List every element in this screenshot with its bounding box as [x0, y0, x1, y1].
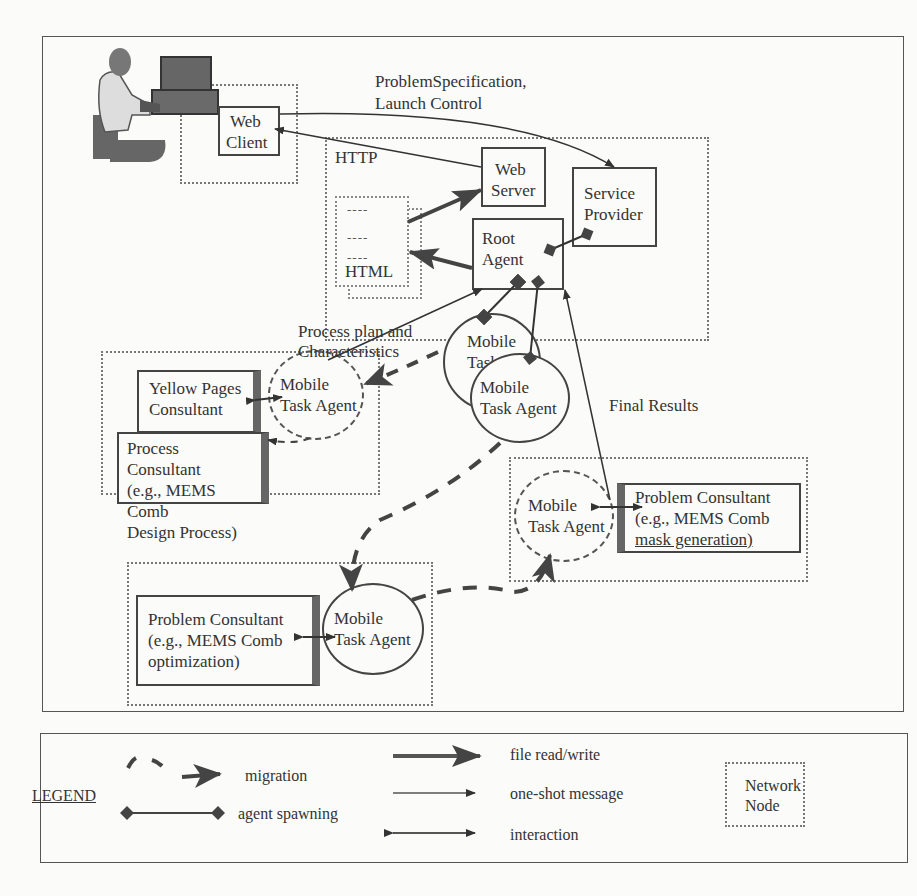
process-consultant-label: Process Consultant [127, 438, 253, 480]
characteristics-label: Characteristics [298, 342, 399, 362]
process-plan-label: Process plan and [298, 322, 412, 342]
html-label: HTML [345, 262, 393, 282]
legend-migration: migration [245, 767, 307, 785]
mta-front-label: Mobile [480, 377, 529, 398]
problem-consultant-opt-label-3: optimization) [148, 651, 302, 672]
process-consultant-label-2: (e.g., MEMS Comb [127, 480, 253, 522]
web-server-label: Web [491, 159, 536, 180]
web-client-label: Web [226, 111, 272, 132]
web-client-box: Web Client [218, 106, 280, 156]
legend-file-read-write: file read/write [510, 746, 600, 764]
mta-process-label: Mobile [280, 374, 329, 395]
mta-back-label: Mobile [467, 331, 516, 352]
launch-control-label: Launch Control [375, 94, 482, 114]
service-provider-box: Service Provider [572, 167, 657, 247]
problem-consultant-mask-label-3: mask generation) [635, 529, 789, 550]
service-provider-label: Service [584, 183, 645, 204]
legend-node-label: Node [745, 796, 803, 816]
web-client-label-2: Client [226, 132, 272, 153]
problem-consultant-mask-label: Problem Consultant [635, 487, 789, 508]
legend-network-node: Network Node [725, 762, 805, 827]
legend-interaction: interaction [510, 826, 578, 844]
mta-mask-label: Mobile [528, 495, 577, 516]
root-agent-label: Root [482, 228, 554, 249]
html-dash-2: ---- [347, 230, 368, 246]
process-consultant-label-3: Design Process) [127, 522, 253, 543]
mta-opt-label: Mobile [334, 608, 383, 629]
http-label: HTTP [335, 148, 378, 168]
problem-consultant-mask-box: Problem Consultant (e.g., MEMS Comb mask… [617, 483, 801, 553]
mobile-task-agent-mask: Mobile Task Agent [514, 470, 614, 562]
process-consultant-box: Process Consultant (e.g., MEMS Comb Desi… [117, 432, 269, 504]
mobile-task-agent-optimization: Mobile Task Agent [322, 583, 424, 675]
mobile-task-agent-front: Mobile Task Agent [470, 353, 570, 443]
yellow-pages-box: Yellow Pages Consultant [137, 370, 261, 433]
mta-front-label-2: Task Agent [480, 398, 557, 419]
problem-consultant-optimization-box: Problem Consultant (e.g., MEMS Comb opti… [136, 595, 320, 686]
html-dash-1: ---- [347, 202, 368, 218]
service-provider-label-2: Provider [584, 204, 645, 225]
legend-one-shot-message: one-shot message [510, 785, 623, 803]
root-agent-box: Root Agent [472, 218, 564, 290]
legend-agent-spawning: agent spawning [238, 805, 338, 823]
mta-opt-label-2: Task Agent [334, 629, 411, 650]
mta-process-label-2: Task Agent [280, 395, 357, 416]
root-agent-label-2: Agent [482, 249, 554, 270]
mobile-task-agent-process: Mobile Task Agent [268, 350, 364, 440]
problem-consultant-opt-label: Problem Consultant [148, 609, 302, 630]
web-server-box: Web Server [481, 147, 546, 207]
yellow-pages-label-2: Consultant [149, 399, 243, 420]
problem-consultant-opt-label-2: (e.g., MEMS Comb [148, 630, 302, 651]
problem-consultant-mask-label-2: (e.g., MEMS Comb [635, 508, 789, 529]
final-results-label: Final Results [609, 396, 698, 416]
web-server-label-2: Server [491, 180, 536, 201]
problem-spec-label: ProblemSpecification, [375, 72, 527, 92]
legend-network-label: Network [745, 776, 803, 796]
legend-title: LEGEND [32, 787, 96, 805]
mta-mask-label-2: Task Agent [528, 516, 605, 537]
yellow-pages-label: Yellow Pages [149, 378, 243, 399]
html-document: ---- ---- ---- HTML [335, 196, 409, 287]
